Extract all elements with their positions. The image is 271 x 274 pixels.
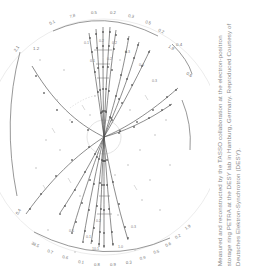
arc-label: 0.5 (153, 248, 161, 255)
arc-label: 0.2 (110, 10, 116, 15)
arc-label: 0.5 (145, 19, 153, 26)
track-label: 0.5 (69, 229, 74, 233)
arc-label: 38.5 (31, 240, 41, 248)
arc-label: 0.5 (91, 10, 97, 15)
outer-label: 0.4 (15, 207, 23, 215)
track-label: 0.1 (90, 59, 95, 63)
left-outer-arc (10, 52, 20, 196)
inner-dashed-arc (70, 95, 100, 108)
track-label: 0.1 (86, 235, 91, 239)
track-label: 0.3 (125, 50, 130, 54)
track-label: 0.2 (107, 57, 112, 61)
track-label: 0.2 (112, 41, 117, 45)
outer-label: 1.2 (33, 46, 40, 51)
track-label: 0.3 (131, 225, 136, 229)
outer-label: 2.1 (13, 44, 21, 52)
track-label: 0.2 (96, 219, 101, 223)
lower-left-hits (59, 153, 100, 243)
left-lower-curved-track (26, 137, 104, 214)
arc-label: 0.1 (78, 259, 85, 265)
lower-jet-tracks (91, 137, 128, 248)
event-display-panel: 0.1 7.8 0.5 0.2 0.3 0.5 0.2 38.5 0.7 0.6… (0, 0, 210, 274)
bottom-outer-arc (34, 232, 170, 252)
track-label: 10.1 (92, 247, 99, 251)
arc-label: 0.2 (158, 27, 166, 34)
caption-line-3: Deutsches Elektron-Synchrotron (DESY). (235, 148, 241, 266)
arc-label: 0.6 (164, 241, 172, 248)
track-label: 0.4 (139, 63, 144, 67)
caption-line-1: Measured and reconstructed by the TASSO … (217, 35, 223, 266)
left-side-labels: 2.1 1.2 0.4 (13, 44, 40, 215)
outer-label: 0.4 (176, 42, 183, 47)
outer-label: 0.6 (185, 71, 193, 79)
track-label: 0.2 (99, 39, 104, 43)
track-label: 1.0 (118, 245, 123, 249)
arc-label: 0.8 (94, 262, 100, 267)
caption-line-2: storage ring PETRA at the DESY lab in Ha… (226, 23, 232, 266)
bottom-inner-track-labels: 0.5 0.1 0.2 10.1 1.0 0.3 (69, 219, 136, 251)
track-label: 0.1 (84, 41, 89, 45)
top-outer-arc (53, 21, 158, 36)
arc-label: 7.8 (69, 12, 77, 19)
left-lower-curved-hits (29, 146, 90, 210)
arc-label: 0.9 (139, 255, 146, 261)
left-curved-track (32, 66, 104, 137)
arc-label: 0.6 (62, 254, 70, 260)
track-label: 0.3 (152, 79, 157, 83)
arc-label: 0.1 (48, 19, 56, 26)
arc-label: 0.2 (174, 232, 182, 240)
arc-label: 0.9 (110, 262, 116, 267)
arc-label: 0.7 (47, 248, 55, 255)
arc-label: 0.3 (126, 259, 133, 265)
right-wide-tracks (104, 88, 178, 137)
arc-label: 0.3 (128, 13, 135, 19)
detector-event-svg: 0.1 7.8 0.5 0.2 0.3 0.5 0.2 38.5 0.7 0.6… (0, 0, 210, 274)
right-outer-arc (172, 44, 192, 150)
arc-label: 1.9 (184, 223, 192, 231)
figure-root: 0.1 7.8 0.5 0.2 0.3 0.5 0.2 38.5 0.7 0.6… (0, 0, 271, 274)
figure-caption: Measured and reconstructed by the TASSO … (212, 0, 271, 274)
outer-label: 1.9 (167, 44, 175, 52)
